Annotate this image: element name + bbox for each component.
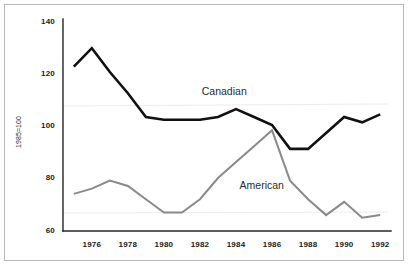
y-tick-label-60: 60 (46, 226, 56, 235)
y-axis-title: 1985=100 (15, 116, 22, 148)
x-axis-tick-labels: 1976 1978 1980 1982 1984 1986 1988 1990 … (83, 240, 390, 249)
series-label-canadian: Canadian (202, 85, 247, 97)
x-tick-label-1986: 1986 (263, 240, 282, 249)
series-line-canadian (74, 48, 380, 149)
y-tick-label-80: 80 (46, 173, 56, 182)
faint-rule-lower (62, 212, 388, 213)
chart-figure: 140 120 100 80 60 1985=100 1976 1978 198… (0, 0, 408, 265)
line-chart: 140 120 100 80 60 1985=100 1976 1978 198… (0, 0, 408, 265)
y-tick-label-120: 120 (41, 69, 55, 78)
axis-lines (63, 19, 391, 231)
x-tick-label-1984: 1984 (227, 240, 246, 249)
faint-rule-upper (62, 104, 388, 106)
x-tick-label-1980: 1980 (155, 240, 174, 249)
x-tick-label-1988: 1988 (299, 240, 318, 249)
x-tick-label-1982: 1982 (191, 240, 210, 249)
y-tick-label-100: 100 (41, 121, 55, 130)
x-tick-label-1976: 1976 (83, 240, 102, 249)
x-tick-label-1992: 1992 (371, 240, 390, 249)
x-tick-label-1978: 1978 (119, 240, 138, 249)
y-tick-label-140: 140 (41, 17, 55, 26)
x-tick-label-1990: 1990 (335, 240, 354, 249)
series-line-american (74, 130, 380, 217)
y-axis-tick-labels: 140 120 100 80 60 (41, 17, 55, 235)
series-label-american: American (240, 179, 285, 191)
